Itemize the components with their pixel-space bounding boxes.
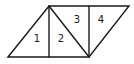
parallelogram-diagram: 1 2 3 4 bbox=[0, 0, 134, 64]
triangle-label-2: 2 bbox=[58, 33, 64, 44]
diagonal-divider bbox=[49, 6, 89, 57]
triangle-label-3: 3 bbox=[74, 14, 80, 25]
triangle-label-4: 4 bbox=[98, 14, 104, 25]
triangle-label-1: 1 bbox=[34, 33, 40, 44]
